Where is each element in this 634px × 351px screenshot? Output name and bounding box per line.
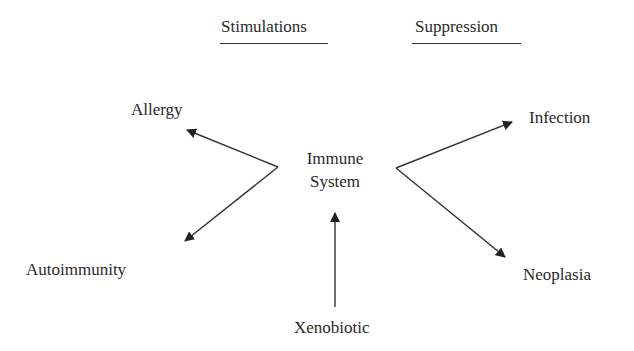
arrow-to-allergy xyxy=(187,130,278,167)
arrow-to-neoplasia xyxy=(396,168,505,257)
arrow-to-infection xyxy=(396,122,512,168)
arrows xyxy=(0,0,634,351)
arrow-to-autoimmunity xyxy=(185,167,278,241)
